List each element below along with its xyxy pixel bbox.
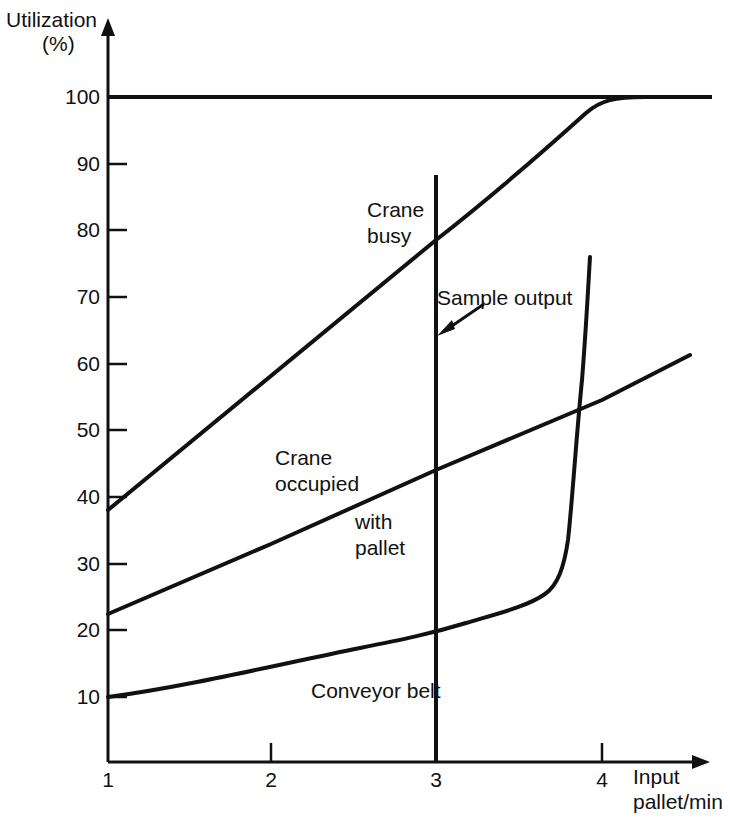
curve-label-crane-busy-line1: Crane [367,198,424,223]
x-tick-label-3: 3 [416,768,456,793]
y-tick-label-10: 10 [38,685,100,710]
chart-figure: Utilization (%) Input pallet/min 100 90 … [0,0,730,829]
crane-occupied-with-pallet-curve [108,355,690,614]
y-tick-label-80: 80 [38,218,100,243]
y-tick-label-40: 40 [38,485,100,510]
x-tick-label-4: 4 [582,768,622,793]
x-axis [108,755,710,769]
y-tick-label-60: 60 [38,352,100,377]
y-tick-label-90: 90 [38,152,100,177]
y-axis-title-line1: Utilization [6,8,97,33]
chart-canvas [0,0,730,829]
x-tick-label-2: 2 [251,768,291,793]
curve-label-with-pallet-line2: pallet [355,536,405,561]
y-tick-label-20: 20 [38,618,100,643]
x-tick-label-1: 1 [88,768,128,793]
y-axis [101,18,115,762]
y-tick-label-30: 30 [38,552,100,577]
y-tick-label-100: 100 [38,85,100,110]
curve-label-crane-busy-line2: busy [367,224,411,249]
curve-label-conveyor-belt: Conveyor belt [311,679,441,704]
curve-label-crane-occupied-line2: occupied [275,472,359,497]
curve-label-crane-occupied-line1: Crane [275,446,332,471]
x-axis-title-line1: Input [633,765,680,790]
curve-label-with-pallet-line1: with [355,510,392,535]
y-tick-label-70: 70 [38,285,100,310]
annotation-label-sample-output: Sample output [437,286,572,311]
y-axis-title-line2: (%) [42,32,75,57]
y-tick-label-50: 50 [38,418,100,443]
x-axis-title-line2: pallet/min [633,790,723,815]
